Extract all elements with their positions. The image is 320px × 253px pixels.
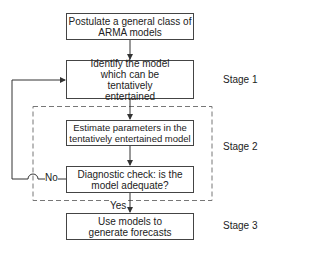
no-label: No bbox=[45, 172, 58, 183]
diagnostic-text: Diagnostic check: is the model adequate? bbox=[77, 169, 183, 191]
stage-1-label: Stage 1 bbox=[223, 74, 257, 85]
forecast-text: Use models to generate forecasts bbox=[85, 216, 175, 238]
identify-text: Identify the model which can be tentativ… bbox=[83, 58, 177, 102]
postulate-text: Postulate a general class of ARMA models bbox=[67, 16, 193, 38]
diagnostic-box: Diagnostic check: is the model adequate? bbox=[66, 166, 194, 193]
stage-3-label: Stage 3 bbox=[223, 220, 257, 231]
postulate-box: Postulate a general class of ARMA models bbox=[66, 13, 194, 40]
estimate-box: Estimate parameters in the tentatively e… bbox=[66, 120, 194, 146]
identify-box: Identify the model which can be tentativ… bbox=[66, 60, 194, 99]
estimate-text: Estimate parameters in the tentatively e… bbox=[67, 122, 193, 144]
yes-label: Yes bbox=[110, 200, 126, 211]
forecast-box: Use models to generate forecasts bbox=[66, 213, 194, 240]
stage-2-label: Stage 2 bbox=[223, 141, 257, 152]
